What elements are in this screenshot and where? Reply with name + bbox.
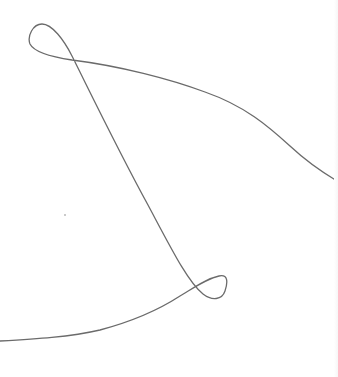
freehand-stroke	[0, 24, 337, 341]
sketch-svg	[0, 0, 338, 377]
drawing-canvas[interactable]: Freehand sketch canvas	[0, 0, 338, 377]
canvas-edge	[334, 0, 338, 377]
stray-dot	[64, 214, 66, 216]
